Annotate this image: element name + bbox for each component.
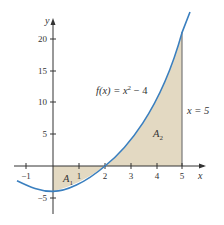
y-tick-label: 10 (38, 97, 48, 107)
x-axis-arrow-icon (199, 164, 206, 169)
x-tick-label: −1 (21, 171, 31, 181)
x-tick-label: 5 (180, 171, 185, 181)
vertical-line-label: x = 5 (186, 105, 209, 116)
y-tick-label: −5 (37, 193, 47, 203)
x-tick-label: 4 (155, 171, 160, 181)
function-label: f(x) = x2 − 4 (96, 84, 148, 97)
y-axis-arrow-icon (51, 18, 56, 25)
y-axis-label: y (44, 15, 50, 26)
x-tick-label: 1 (77, 171, 82, 181)
x-tick-label: 3 (129, 171, 134, 181)
x-axis-label: x (197, 170, 203, 181)
y-tick-label: 20 (38, 34, 48, 44)
area-under-curve-figure: −1 1 2 3 4 5 20 15 10 5 −5 y x f(x) = x2… (0, 0, 224, 225)
y-tick-label: 15 (38, 66, 48, 76)
region-a2 (105, 33, 182, 166)
y-tick-label: 5 (43, 129, 48, 139)
x-tick-label: 2 (103, 171, 108, 181)
